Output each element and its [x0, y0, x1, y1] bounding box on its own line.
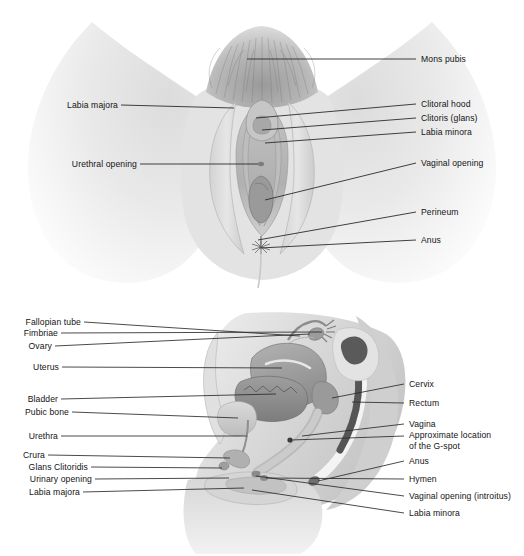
label-urinary-opening: Urinary opening: [0, 474, 92, 485]
label-urethra: Urethra: [0, 431, 58, 442]
label-pubic-bone: Pubic bone: [0, 407, 69, 418]
label-labia-majora-bottom: Labia majora: [0, 487, 80, 498]
label-labia-minora-bottom: Labia minora: [409, 508, 460, 519]
label-ovary: Ovary: [0, 341, 52, 352]
label-labia-minora-top: Labia minora: [421, 127, 472, 138]
label-fimbriae: Fimbriae: [0, 328, 58, 339]
glans-clitoridis: [219, 462, 229, 470]
label-rectum: Rectum: [409, 398, 439, 409]
anatomy-illustration-svg: [0, 0, 524, 556]
label-mons-pubis: Mons pubis: [421, 54, 466, 65]
label-anus-top: Anus: [421, 235, 441, 246]
label-hymen: Hymen: [409, 474, 437, 485]
label-fallopian-tube: Fallopian tube: [0, 317, 81, 328]
label-cervix: Cervix: [409, 379, 434, 390]
label-uterus: Uterus: [0, 362, 59, 373]
label-anus-bottom: Anus: [409, 456, 429, 467]
label-vagina: Vagina: [409, 419, 436, 430]
anatomy-figure: Mons pubis Clitoral hood Clitoris (glans…: [0, 0, 524, 556]
label-labia-majora-top: Labia majora: [0, 100, 118, 111]
clitoris-glans: [253, 116, 271, 134]
sagittal-section-view: [184, 312, 406, 554]
label-vaginal-opening-top: Vaginal opening: [421, 158, 484, 169]
label-crura: Crura: [0, 450, 45, 461]
label-g-spot-line2: of the G-spot: [409, 441, 460, 452]
label-bladder: Bladder: [0, 394, 58, 405]
label-urethral-opening: Urethral opening: [0, 159, 137, 170]
label-clitoral-hood: Clitoral hood: [421, 99, 471, 110]
label-g-spot-line1: Approximate location: [409, 430, 491, 441]
urethral-opening: [258, 162, 264, 166]
pubic-bone: [218, 402, 257, 437]
leader-crura: [48, 455, 230, 458]
label-clitoris-glans: Clitoris (glans): [421, 113, 478, 124]
label-perineum: Perineum: [421, 207, 459, 218]
label-glans-clitoridis: Glans Clitoridis: [0, 462, 88, 473]
label-vaginal-opening-introitus: Vaginal opening (introitus): [409, 491, 511, 502]
